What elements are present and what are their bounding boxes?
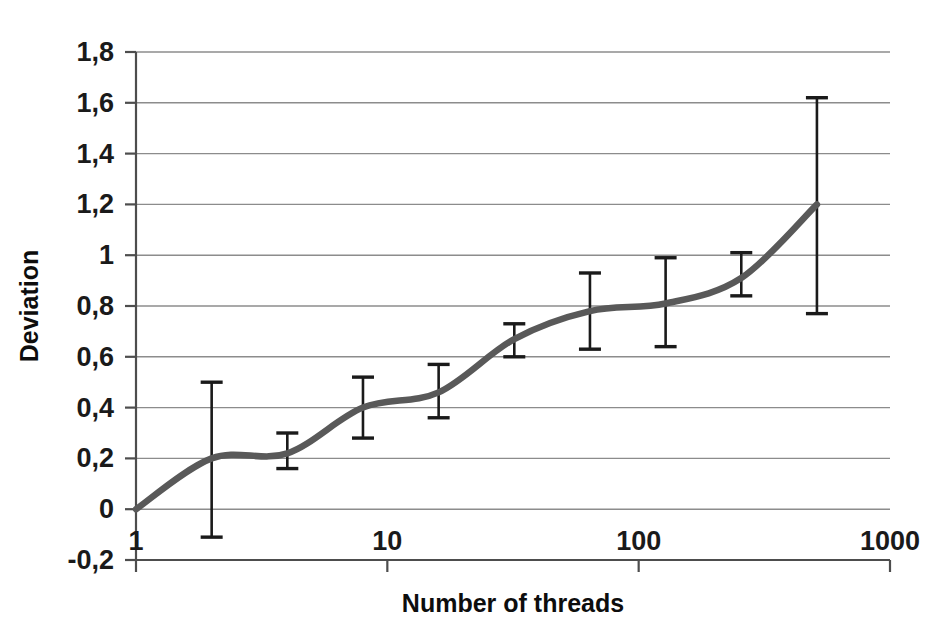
x-tick-label: 100	[616, 526, 661, 556]
y-tick-label: 1,2	[76, 189, 114, 219]
y-tick-label: 0	[99, 494, 114, 524]
y-tick-label: 1	[99, 240, 114, 270]
deviation-vs-threads-chart: 1,81,61,41,210,80,60,40,20-0,2 110100100…	[0, 0, 929, 632]
y-tick-label: 0,4	[76, 393, 114, 423]
y-axis-title: Deviation	[15, 250, 43, 363]
y-tick-label: 1,6	[76, 88, 114, 118]
x-axis-title: Number of threads	[402, 589, 624, 617]
chart-figure: 1,81,61,41,210,80,60,40,20-0,2 110100100…	[0, 0, 929, 632]
x-tick-label: 1000	[860, 526, 920, 556]
y-tick-label: 0,2	[76, 443, 114, 473]
y-tick-label: 0,8	[76, 291, 114, 321]
y-tick-label: 0,6	[76, 342, 114, 372]
x-tick-label: 1	[128, 526, 143, 556]
x-tick-label: 10	[372, 526, 402, 556]
y-tick-label: 1,4	[76, 139, 114, 169]
y-tick-label: -0,2	[67, 545, 114, 575]
y-tick-label: 1,8	[76, 37, 114, 67]
